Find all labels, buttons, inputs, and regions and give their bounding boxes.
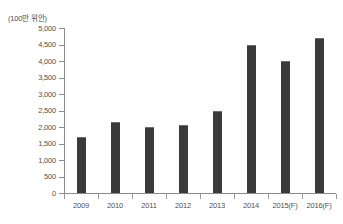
bar-highlight xyxy=(247,45,256,46)
x-tick-mark xyxy=(200,194,201,199)
x-tick-mark xyxy=(336,194,337,199)
bar xyxy=(111,122,120,193)
y-tick-label: 1,500 xyxy=(16,139,56,148)
bar-highlight xyxy=(281,61,290,62)
bar xyxy=(213,111,222,194)
y-tick-mark xyxy=(59,28,64,29)
x-tick-mark xyxy=(166,194,167,199)
bar-highlight xyxy=(111,122,120,123)
y-tick-mark xyxy=(59,61,64,62)
bar xyxy=(247,45,256,194)
bar-highlight xyxy=(213,111,222,112)
y-tick-mark xyxy=(59,127,64,128)
y-tick-mark xyxy=(59,111,64,112)
y-tick-label: 2,000 xyxy=(16,123,56,132)
bar xyxy=(77,137,86,193)
bar xyxy=(315,38,324,193)
bar-chart: (100만 위안) 05001,0001,5002,0002,5003,0003… xyxy=(0,0,343,224)
x-tick-mark xyxy=(302,194,303,199)
bar-highlight xyxy=(77,137,86,138)
y-tick-mark xyxy=(59,144,64,145)
y-tick-label: 1,000 xyxy=(16,156,56,165)
bar-highlight xyxy=(145,127,154,128)
x-tick-mark xyxy=(98,194,99,199)
y-tick-mark xyxy=(59,177,64,178)
y-tick-label: 3,000 xyxy=(16,90,56,99)
y-tick-mark xyxy=(59,45,64,46)
bar xyxy=(145,127,154,193)
x-tick-label: 2016(F) xyxy=(297,201,341,210)
y-axis-line xyxy=(64,28,65,194)
y-axis-unit-label: (100만 위안) xyxy=(8,12,47,23)
y-tick-label: 3,500 xyxy=(16,73,56,82)
y-tick-label: 5,000 xyxy=(16,24,56,33)
x-tick-mark xyxy=(268,194,269,199)
x-tick-mark xyxy=(132,194,133,199)
y-tick-label: 0 xyxy=(16,189,56,198)
y-tick-mark xyxy=(59,78,64,79)
x-tick-mark-origin xyxy=(64,194,65,199)
y-tick-label: 4,500 xyxy=(16,40,56,49)
y-tick-mark xyxy=(59,160,64,161)
x-tick-mark xyxy=(234,194,235,199)
bar-highlight xyxy=(179,125,188,126)
bar-highlight xyxy=(315,38,324,39)
y-tick-label: 500 xyxy=(16,172,56,181)
bar xyxy=(281,61,290,193)
bar xyxy=(179,125,188,193)
y-tick-mark xyxy=(59,94,64,95)
y-tick-label: 4,000 xyxy=(16,57,56,66)
y-tick-label: 2,500 xyxy=(16,106,56,115)
